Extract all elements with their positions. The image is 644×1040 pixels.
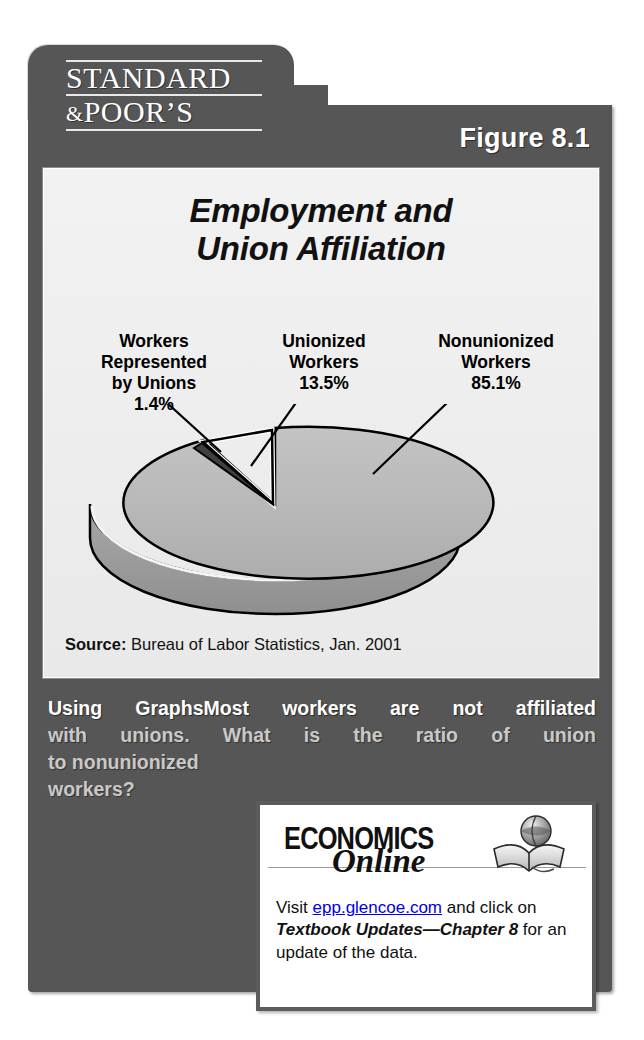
pie-label-value: 85.1% — [403, 373, 589, 394]
pie-label-line-1: Workers — [69, 331, 239, 352]
pie-label-unionized-workers: Unionized Workers 13.5% — [239, 331, 409, 394]
econ-text-chapter: Textbook Updates—Chapter 8 — [276, 920, 518, 939]
caption-line-3-text: to nonunionized — [48, 751, 199, 773]
econ-text-visit: Visit — [276, 898, 313, 917]
pie-label-line-2: Workers — [403, 352, 589, 373]
open-book-globe-icon — [486, 815, 572, 881]
chart-source: Source: Bureau of Labor Statistics, Jan.… — [65, 635, 402, 654]
caption-line-2: with unions. What is the ratio of union — [48, 722, 596, 749]
pie-label-nonunionized-workers: Nonunionized Workers 85.1% — [403, 331, 589, 394]
caption-line-2-text: with unions. What is the ratio of union — [48, 724, 596, 746]
glencoe-link[interactable]: epp.glencoe.com — [313, 898, 442, 917]
pie-label-workers-represented: Workers Represented by Unions 1.4% — [69, 331, 239, 415]
pie-label-line-1: Unionized — [239, 331, 409, 352]
online-script-wordmark: Online — [332, 843, 426, 880]
logo-ampersand: & — [66, 101, 84, 126]
logo-rule-bottom — [66, 129, 262, 131]
chart-source-text: Bureau of Labor Statistics, Jan. 2001 — [126, 635, 401, 653]
figure-caption: Using GraphsMost workers are not affilia… — [48, 695, 596, 803]
economics-online-text: Visit epp.glencoe.com and click on Textb… — [276, 897, 576, 964]
pie-label-line-3: by Unions — [69, 373, 239, 394]
caption-line-1-text: Most workers are not affiliated — [204, 697, 596, 719]
pie-chart-svg — [43, 404, 599, 626]
caption-line-4: workers? — [48, 776, 338, 803]
logo-poors-text: &POOR’S — [66, 97, 276, 127]
pie-label-line-2: Represented — [69, 352, 239, 373]
logo-standard-text: STANDARD — [66, 63, 276, 93]
caption-line-3: to nonunionized — [48, 749, 338, 776]
chart-panel: Employment and Union Affiliation Workers… — [42, 167, 600, 679]
pie-label-line-1: Nonunionized — [403, 331, 589, 352]
chart-title: Employment and Union Affiliation — [43, 192, 599, 267]
figure-number-label: Figure 8.1 — [459, 123, 590, 154]
caption-heading: Using Graphs — [48, 697, 204, 719]
economics-online-logo: ECONOMICS Online — [274, 813, 578, 891]
economics-online-box: ECONOMICS Online — [256, 801, 596, 1011]
econ-text-click: and click on — [442, 898, 537, 917]
pie-chart — [43, 404, 599, 626]
logo-poors-word: POOR’S — [84, 95, 194, 128]
standard-and-poors-logo: STANDARD &POOR’S — [66, 58, 276, 133]
pie-label-line-2: Workers — [239, 352, 409, 373]
caption-line-4-text: workers? — [48, 778, 135, 800]
pie-slice-nonunionized — [123, 427, 493, 579]
chart-title-line-1: Employment and — [43, 192, 599, 230]
caption-line-1: Using GraphsMost workers are not affilia… — [48, 695, 596, 722]
chart-title-line-2: Union Affiliation — [43, 230, 599, 268]
chart-source-label: Source: — [65, 635, 126, 653]
pie-label-value: 13.5% — [239, 373, 409, 394]
figure-card: STANDARD &POOR’S Figure 8.1 Employment a… — [28, 45, 612, 992]
